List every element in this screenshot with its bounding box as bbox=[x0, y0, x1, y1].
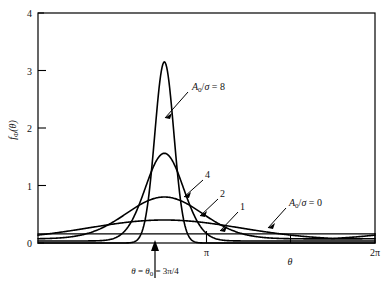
y-tick-label-3: 3 bbox=[27, 66, 32, 77]
x-axis-label: θ bbox=[288, 256, 293, 267]
probability-density-plot: 0 1 2 3 4 π 2π θ fΦ(θ) bbox=[0, 0, 387, 289]
annotation-ratio-4-label: 4 bbox=[205, 169, 210, 180]
y-tick-label-4: 4 bbox=[27, 8, 32, 19]
y-axis-label-arg: (θ) bbox=[7, 120, 19, 132]
figure-container: 0 1 2 3 4 π 2π θ fΦ(θ) bbox=[0, 0, 387, 289]
y-axis-tick-labels: 0 1 2 3 4 bbox=[27, 8, 32, 249]
y-tick-label-2: 2 bbox=[27, 123, 32, 134]
y-tick-label-0: 0 bbox=[27, 238, 32, 249]
svg-text:fΦ(θ): fΦ(θ) bbox=[7, 120, 20, 140]
annotation-ratio-2-label: 2 bbox=[220, 188, 225, 199]
plot-frame bbox=[38, 13, 375, 243]
x-tick-label-2pi: 2π bbox=[370, 247, 380, 258]
y-tick-label-1: 1 bbox=[27, 181, 32, 192]
y-axis-label: fΦ(θ) bbox=[7, 120, 20, 140]
annotation-ratio-1-label: 1 bbox=[240, 201, 245, 212]
x-tick-label-pi: π bbox=[204, 247, 209, 258]
theta0-marker: θ = θ0 = 3π/4 bbox=[131, 240, 179, 278]
